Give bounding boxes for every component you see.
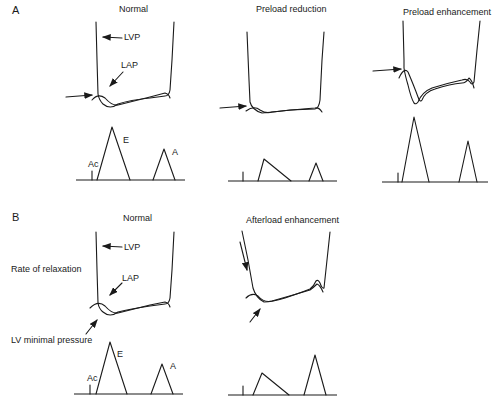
- panel-a-preload-enhancement-pressure: [373, 21, 480, 104]
- lv-min-arrow-icon: [86, 320, 97, 334]
- panel-a-normal-title: Normal: [119, 5, 148, 14]
- panel-a-preload-enhancement-doppler: [382, 117, 488, 182]
- arrow-icon: [373, 69, 401, 71]
- lv-minimal-pressure-label: LV minimal pressure: [11, 336, 92, 345]
- panel-b-afterload-title: Afterload enhancement: [246, 216, 339, 225]
- panel-a-preload-reduction-doppler: [228, 159, 337, 181]
- diagram-canvas: [0, 0, 497, 406]
- e-wave-label: E: [117, 350, 123, 359]
- lvp-arrow-icon: [103, 246, 122, 247]
- a-wave-label: A: [170, 362, 176, 371]
- lvp-label: LVP: [124, 33, 140, 42]
- panel-a-preload-enhancement-title: Preload enhancement: [403, 8, 491, 17]
- panel-b-afterload-doppler: [228, 355, 337, 395]
- arrow-icon: [66, 95, 92, 97]
- lap-arrow-icon: [110, 283, 122, 295]
- panel-a-preload-reduction-title: Preload reduction: [256, 5, 327, 14]
- panel-b-letter: B: [12, 212, 19, 223]
- arrow-icon: [220, 106, 246, 108]
- lap-arrow-icon: [110, 72, 123, 86]
- ac-label: Ac: [88, 160, 99, 169]
- panel-a-preload-reduction-pressure: [220, 32, 324, 113]
- lv-min-arrow-icon: [250, 309, 260, 322]
- panel-b-afterload-pressure: [240, 231, 330, 322]
- panel-b-normal-doppler: [74, 342, 183, 394]
- panel-a-normal-doppler: [76, 127, 185, 180]
- lvp-label: LVP: [124, 243, 140, 252]
- e-wave-label: E: [123, 136, 129, 145]
- panel-b-normal-title: Normal: [123, 214, 152, 223]
- lvp-arrow-icon: [103, 37, 122, 38]
- lap-label: LAP: [121, 61, 138, 70]
- panel-a-letter: A: [12, 5, 19, 16]
- relaxation-arrow-icon: [240, 242, 247, 270]
- ac-label: Ac: [87, 374, 98, 383]
- lap-label: LAP: [122, 274, 139, 283]
- panel-a-normal-pressure: [66, 22, 174, 107]
- rate-of-relaxation-label: Rate of relaxation: [11, 265, 82, 274]
- a-wave-label: A: [172, 148, 178, 157]
